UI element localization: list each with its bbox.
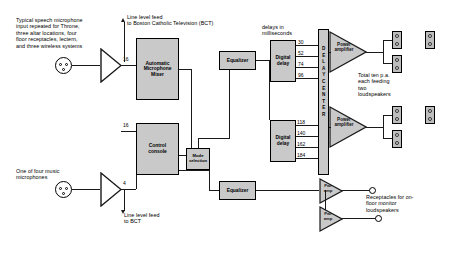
delay-value-top-0: 30 <box>298 40 304 45</box>
loudspeaker-icon <box>392 130 402 148</box>
delay-value-top-1: 52 <box>298 51 304 56</box>
wire-delay-top-tap-2 <box>296 67 318 68</box>
loudspeaker-icon <box>425 31 435 49</box>
wire-monitor-top-to-jack <box>342 190 370 191</box>
diagram-canvas: Typical speech microphone input repeated… <box>0 0 456 265</box>
music-preamp-icon <box>100 172 122 207</box>
wire-delay-bottom-tap-1 <box>296 136 318 137</box>
wire-amp-bottom-to-speaker-2 <box>383 138 392 139</box>
wire-music-mic-to-preamp <box>72 189 100 190</box>
delay-value-top-3: 96 <box>298 73 304 78</box>
wire-speech-mic-to-preamp <box>72 65 100 66</box>
wire-delay-top-tap-3 <box>296 78 318 79</box>
delay-value-bottom-3: 184 <box>297 153 305 158</box>
loudspeaker-icon <box>392 31 402 49</box>
block-mode-selection-label: Mode selection <box>187 149 209 169</box>
wire-delay-top-tap-0 <box>296 45 318 46</box>
wire-preamp-to-mixer <box>121 65 136 66</box>
block-delay-center-label: DELAYCENTER <box>321 46 326 119</box>
delay-value-bottom-0: 118 <box>297 120 305 125</box>
block-mode-selection[interactable]: Mode selection <box>186 148 210 170</box>
wire-mixer-to-mode <box>191 69 192 155</box>
wire-equalizer-bottom-out <box>256 190 319 191</box>
wire-monitor-bottom-to-jack <box>342 218 376 219</box>
wire-console-lower-out <box>179 170 210 171</box>
loudspeaker-icon <box>425 106 435 124</box>
block-equalizer-top[interactable]: Equalizer <box>219 51 256 70</box>
loudspeaker-icon <box>392 55 402 73</box>
annotation-speech-microphone: Typical speech microphone input repeated… <box>16 17 124 49</box>
wire-into-amp-bottom <box>329 127 331 128</box>
wire-to-console-input <box>121 131 136 132</box>
block-digital-delay-bottom[interactable]: Digital delay <box>270 120 296 162</box>
wire-equalizer-top-to-delay <box>256 60 270 61</box>
power-amplifier-bottom-label: Power amplifier <box>331 117 357 127</box>
wire-amp-top-to-speaker-2 <box>383 63 392 64</box>
wire-console-to-mode <box>179 155 186 156</box>
annotation-total-pa: Total ten p.a. each feeding two loudspea… <box>358 72 416 98</box>
block-equalizer-top-label: Equalizer <box>220 52 255 69</box>
annotation-music-microphone: One of four music microphones <box>16 168 96 181</box>
power-amplifier-top-label: Power amplifier <box>331 42 357 52</box>
wire-into-equalizer-bottom <box>209 190 219 191</box>
block-control-console[interactable]: Control console <box>136 123 179 175</box>
wire-mode-to-equalizer-top <box>198 138 230 139</box>
delay-value-bottom-2: 162 <box>297 142 305 147</box>
delay-value-top-2: 74 <box>298 62 304 67</box>
wire-amp-top-split <box>383 40 384 64</box>
block-automatic-microphone-mixer[interactable]: Automatic Microphone Mixer <box>136 38 179 100</box>
monitor-amplifier-top-label: Pwr amp <box>320 184 336 194</box>
block-digital-delay-top-label: Digital delay <box>271 41 295 81</box>
speech-preamp-icon <box>100 48 122 83</box>
receptacle-jack-icon <box>375 215 382 222</box>
wire-amp-bottom-to-speaker-1 <box>383 115 392 116</box>
wire-music-to-console-riser <box>136 175 137 189</box>
block-digital-delay-bottom-label: Digital delay <box>271 121 295 161</box>
wire-delay-bottom-tap-2 <box>296 147 318 148</box>
label-console-input-count: 16 <box>123 123 129 128</box>
loudspeaker-icon <box>392 106 402 124</box>
monitor-amplifier-bottom-label: Pwr amp <box>320 212 336 222</box>
block-automatic-microphone-mixer-label: Automatic Microphone Mixer <box>137 39 178 99</box>
speech-microphone-icon <box>55 57 72 74</box>
wire-up-to-equalizer-top <box>229 60 230 138</box>
annotation-bct-bottom-feed: Line level feed to BCT <box>124 212 194 225</box>
receptacle-jack-icon <box>369 187 376 194</box>
wire-amp-top-to-speaker-1 <box>383 40 392 41</box>
wire-into-amp-top <box>329 52 331 53</box>
arrow-bct-bottom-icon <box>121 210 125 214</box>
arrow-bct-top-icon <box>121 18 125 22</box>
block-digital-delay-top[interactable]: Digital delay <box>270 40 296 82</box>
wire-delay-bottom-tap-3 <box>296 158 318 159</box>
wire-delay-top-tap-1 <box>296 56 318 57</box>
block-control-console-label: Control console <box>137 124 178 174</box>
annotation-delays-header: delays in milliseconds <box>262 24 310 37</box>
wire-bct-top <box>124 22 125 62</box>
label-music-input-count: 4 <box>123 181 126 186</box>
block-equalizer-bottom-label: Equalizer <box>220 182 255 199</box>
wire-console-down <box>209 170 210 190</box>
wire-amp-top-out <box>366 52 384 53</box>
delay-value-bottom-1: 140 <box>297 131 305 136</box>
annotation-receptacles: Receptacles for on- floor monitor loudsp… <box>366 194 428 213</box>
wire-amp-bottom-split <box>383 115 384 139</box>
wire-mode-top <box>198 138 199 148</box>
annotation-bct-top-feed: Line level feed to Boston Catholic Telev… <box>127 14 239 27</box>
block-delay-center[interactable]: DELAYCENTER <box>318 29 329 175</box>
wire-delay-bottom-tap-0 <box>296 125 318 126</box>
block-equalizer-bottom[interactable]: Equalizer <box>219 181 256 200</box>
wire-bct-bottom <box>124 189 125 211</box>
wire-amp-bottom-out <box>366 127 384 128</box>
music-microphone-icon <box>55 181 72 198</box>
